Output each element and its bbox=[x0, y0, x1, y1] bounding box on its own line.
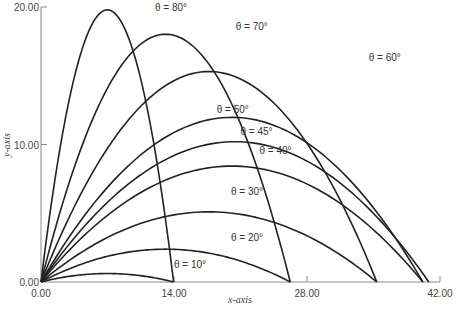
label-theta-20: θ = 20° bbox=[231, 232, 263, 243]
x-tick-label: 0.00 bbox=[31, 288, 51, 299]
trajectory-chart: 0.0014.0028.0042.000.0010.0020.00 θ = 10… bbox=[0, 0, 458, 313]
label-theta-70: θ = 70° bbox=[236, 21, 268, 32]
x-tick-label: 14.00 bbox=[161, 288, 186, 299]
y-tick-label: 0.00 bbox=[20, 277, 40, 288]
trajectory-30-deg bbox=[41, 212, 377, 282]
y-axis-title: y-axis bbox=[1, 133, 12, 158]
trajectory-70-deg bbox=[41, 34, 290, 282]
y-tick-label: 10.00 bbox=[14, 140, 39, 151]
curve-labels: θ = 10°θ = 20°θ = 30°θ = 40°θ = 45°θ = 5… bbox=[155, 2, 401, 270]
label-theta-80: θ = 80° bbox=[155, 2, 187, 13]
label-theta-30: θ = 30° bbox=[231, 186, 263, 197]
x-axis-title: x-axis bbox=[227, 294, 252, 305]
trajectory-60-deg bbox=[41, 72, 377, 282]
trajectory-40-deg bbox=[41, 166, 423, 282]
label-theta-45: θ = 45° bbox=[241, 126, 273, 137]
x-tick-label: 42.00 bbox=[427, 288, 452, 299]
label-theta-40: θ = 40° bbox=[260, 145, 292, 156]
label-theta-50: θ = 50° bbox=[217, 104, 249, 115]
label-theta-10: θ = 10° bbox=[174, 259, 206, 270]
x-tick-label: 28.00 bbox=[294, 288, 319, 299]
trajectory-10-deg bbox=[41, 274, 174, 282]
label-theta-60: θ = 60° bbox=[369, 52, 401, 63]
y-tick-label: 20.00 bbox=[14, 2, 39, 13]
trajectory-80-deg bbox=[41, 10, 174, 282]
